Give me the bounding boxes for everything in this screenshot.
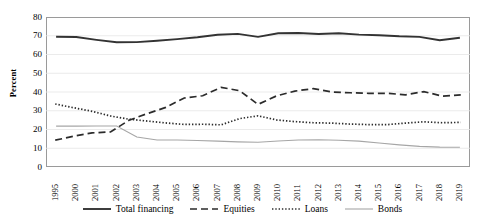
series-line-loans: [55, 104, 461, 125]
legend-entry-equities[interactable]: Equities: [190, 204, 254, 214]
y-tick-label: 40: [18, 88, 42, 97]
y-axis-title: Percent: [8, 48, 18, 118]
x-tick-label: 2004: [152, 184, 161, 201]
y-axis-tick-labels: 01020304050607080: [18, 0, 42, 221]
x-tick-label: 2017: [415, 184, 424, 201]
legend-entry-total-financing[interactable]: Total financing: [83, 204, 174, 214]
x-tick-label: 2018: [435, 184, 444, 201]
x-tick-label: 2008: [233, 184, 242, 201]
legend-label: Equities: [223, 204, 254, 214]
chart-legend: Total financingEquitiesLoansBonds: [0, 200, 485, 218]
x-tick-label: 2009: [253, 184, 262, 201]
y-tick-label: 20: [18, 125, 42, 134]
x-tick-label: 2001: [91, 184, 100, 201]
y-tick-label: 60: [18, 50, 42, 59]
x-tick-label: 2014: [354, 184, 363, 201]
x-tick-label: 2016: [394, 184, 403, 201]
x-tick-label: 2005: [172, 184, 181, 201]
legend-entry-loans[interactable]: Loans: [272, 204, 328, 214]
x-tick-label: 2011: [293, 184, 302, 201]
legend-swatch-equities-icon: [190, 204, 218, 214]
series-line-total-financing: [56, 33, 460, 42]
x-axis-tick-labels: 1995200020012002200320042005200620072008…: [46, 167, 470, 201]
chart-figure: Percent 01020304050607080 19952000200120…: [0, 0, 485, 221]
x-tick-label: 2015: [374, 184, 383, 201]
legend-label: Bonds: [378, 204, 402, 214]
x-tick-label: 2006: [192, 184, 201, 201]
y-tick-label: 50: [18, 69, 42, 78]
x-tick-label: 2010: [273, 184, 282, 201]
x-tick-label: 2013: [334, 184, 343, 201]
x-tick-label: 2003: [132, 184, 141, 201]
x-tick-label: 2000: [71, 184, 80, 201]
x-tick-label: 2019: [455, 184, 464, 201]
x-tick-label: 2007: [213, 184, 222, 201]
series-line-equities: [55, 87, 461, 140]
x-tick-label: 2002: [112, 184, 121, 201]
y-tick-label: 0: [18, 163, 42, 172]
legend-swatch-bonds-icon: [345, 204, 373, 214]
legend-label: Loans: [305, 204, 328, 214]
y-tick-label: 30: [18, 106, 42, 115]
x-tick-label: 2012: [314, 184, 323, 201]
legend-entry-bonds[interactable]: Bonds: [345, 204, 402, 214]
legend-swatch-total-financing-icon: [83, 204, 111, 214]
x-tick-label: 1995: [51, 184, 60, 201]
legend-swatch-loans-icon: [272, 204, 300, 214]
y-tick-label: 80: [18, 13, 42, 22]
y-tick-label: 70: [18, 31, 42, 40]
y-tick-label: 10: [18, 144, 42, 153]
legend-label: Total financing: [116, 204, 174, 214]
chart-plot-svg: [46, 17, 470, 167]
